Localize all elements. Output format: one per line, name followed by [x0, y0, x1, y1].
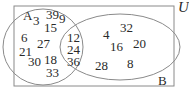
- b-only-number: 32: [120, 21, 133, 34]
- b-only-number: 4: [103, 28, 110, 41]
- a-only-number: 27: [37, 37, 50, 50]
- a-only-number: 30: [28, 55, 41, 68]
- set-a-label: A: [23, 9, 32, 22]
- b-only-number: 28: [95, 59, 108, 72]
- a-only-number: 9: [59, 12, 66, 25]
- set-b-label: B: [158, 74, 167, 87]
- b-only-number: 16: [110, 40, 123, 53]
- b-only-number: 20: [133, 37, 146, 50]
- a-only-number: 3: [33, 14, 40, 27]
- a-only-number: 15: [44, 21, 57, 34]
- universe-label: U: [178, 1, 189, 14]
- b-only-number: 8: [127, 57, 134, 70]
- a-only-number: 6: [21, 31, 28, 44]
- a-only-number: 33: [46, 66, 59, 79]
- intersection-number: 36: [67, 55, 80, 68]
